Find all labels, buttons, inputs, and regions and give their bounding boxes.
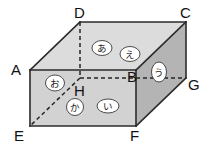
vertex-label-F: F <box>130 127 139 144</box>
cuboid-svg-canvas: あえうおかい ABCDEFGH <box>0 0 199 148</box>
vertex-label-C: C <box>180 4 191 21</box>
vertex-label-B: B <box>127 68 137 85</box>
kana-text-e: え <box>125 49 135 60</box>
kana-marker-a: あ <box>92 41 112 56</box>
kana-text-i: い <box>103 101 113 112</box>
kana-marker-i: い <box>97 99 119 113</box>
kana-marker-o: お <box>46 75 65 91</box>
kana-text-ka: か <box>70 102 80 113</box>
kana-marker-e: え <box>120 47 140 62</box>
kana-marker-u: う <box>152 62 167 82</box>
kana-text-u: う <box>154 67 164 78</box>
kana-text-a: あ <box>97 43 107 54</box>
cuboid-figure: あえうおかい ABCDEFGH <box>0 0 199 148</box>
vertex-label-A: A <box>11 61 21 78</box>
kana-marker-ka: か <box>67 99 84 116</box>
vertex-label-H: H <box>74 82 85 99</box>
vertex-label-G: G <box>188 76 199 93</box>
vertex-label-E: E <box>14 127 24 144</box>
vertex-label-D: D <box>74 4 85 21</box>
kana-text-o: お <box>50 78 60 89</box>
